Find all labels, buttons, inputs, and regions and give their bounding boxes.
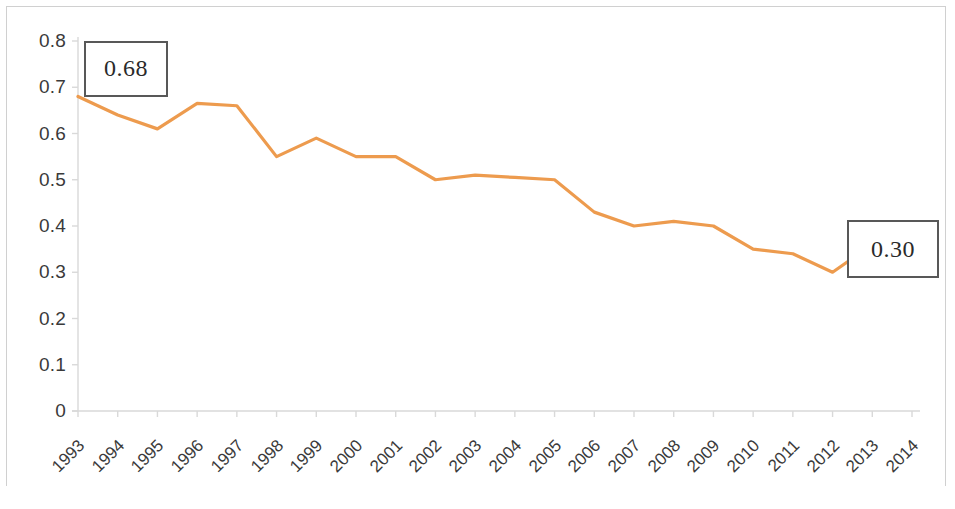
data-line [78,97,912,273]
y-axis-tick-label: 0.7 [20,76,66,98]
y-axis-tick-label: 0.5 [20,169,66,191]
y-axis-tick-label: 0.4 [20,215,66,237]
y-axis-tick-label: 0.2 [20,308,66,330]
y-axis-tick-label: 0.1 [20,354,66,376]
line-chart: 00.10.20.30.40.50.60.70.8 19931994199519… [0,0,955,509]
data-label-callout-end: 0.30 [847,220,939,278]
axis-group [72,37,920,417]
data-label-callout-start: 0.68 [84,41,168,97]
y-axis-tick-label: 0 [20,400,66,422]
y-axis-tick-label: 0.3 [20,261,66,283]
y-axis-tick-label: 0.8 [20,30,66,52]
data-series-group [78,97,912,273]
y-axis-tick-label: 0.6 [20,123,66,145]
